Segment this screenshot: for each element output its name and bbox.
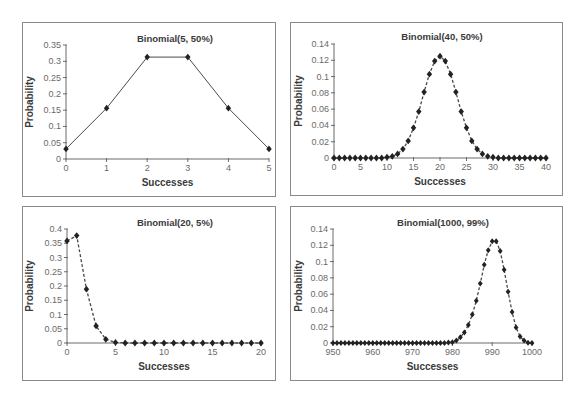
chart-binom-40-50: Binomial(40, 50%)00.020.040.060.080.10.1… bbox=[293, 31, 551, 187]
series-line bbox=[66, 57, 269, 149]
data-point-diamond bbox=[84, 286, 89, 293]
data-point-diamond bbox=[498, 248, 503, 254]
y-axis-title: Probability bbox=[293, 260, 304, 312]
y-tick-label: 0.1 bbox=[315, 257, 328, 267]
data-point-diamond bbox=[390, 153, 395, 160]
y-tick-label: 0.3 bbox=[48, 56, 61, 66]
data-point-diamond bbox=[427, 71, 432, 78]
x-axis-title: Successes bbox=[142, 177, 194, 188]
x-tick-label: 970 bbox=[405, 347, 420, 357]
x-tick-label: 10 bbox=[159, 347, 169, 357]
data-point-diamond bbox=[442, 340, 447, 346]
x-axis-title: Successes bbox=[138, 361, 190, 372]
y-tick-label: 0.25 bbox=[43, 73, 61, 83]
y-tick-label: 0.1 bbox=[316, 72, 329, 82]
chart-binom-1000-99: Binomial(1000, 99%)00.020.040.060.080.10… bbox=[293, 217, 542, 372]
data-point-diamond bbox=[530, 340, 535, 346]
chart-title: Binomial(40, 50%) bbox=[401, 31, 482, 42]
y-tick-label: 0.12 bbox=[311, 55, 329, 65]
data-point-diamond bbox=[200, 340, 205, 347]
data-point-diamond bbox=[142, 340, 147, 347]
chart-title: Binomial(1000, 99%) bbox=[397, 217, 489, 228]
x-tick-label: 4 bbox=[226, 163, 231, 173]
y-tick-label: 0.2 bbox=[48, 89, 61, 99]
data-point-diamond bbox=[358, 155, 363, 162]
data-point-diamond bbox=[352, 155, 357, 162]
y-tick-label: 0.02 bbox=[311, 137, 329, 147]
data-point-diamond bbox=[374, 155, 379, 162]
x-tick-label: 1000 bbox=[522, 347, 542, 357]
y-tick-label: 0.14 bbox=[310, 224, 328, 234]
data-point-diamond bbox=[405, 138, 410, 145]
data-point-diamond bbox=[517, 155, 522, 162]
chart-title: Binomial(20, 5%) bbox=[137, 217, 213, 228]
data-point-diamond bbox=[384, 154, 389, 161]
data-point-diamond bbox=[527, 155, 532, 162]
x-tick-label: 0 bbox=[64, 347, 69, 357]
data-point-diamond bbox=[464, 124, 469, 131]
y-tick-label: 0.12 bbox=[310, 240, 328, 250]
data-point-diamond bbox=[446, 340, 451, 346]
y-tick-label: 0.02 bbox=[310, 322, 328, 332]
series-line bbox=[333, 241, 532, 343]
data-point-diamond bbox=[219, 340, 224, 347]
x-tick-label: 20 bbox=[256, 347, 266, 357]
x-tick-label: 30 bbox=[488, 162, 498, 172]
data-point-diamond bbox=[152, 340, 157, 347]
y-tick-label: 0.15 bbox=[44, 295, 62, 305]
data-point-diamond bbox=[181, 340, 186, 347]
data-point-diamond bbox=[482, 262, 487, 268]
x-tick-label: 25 bbox=[461, 162, 471, 172]
chart-binom-20-5: Binomial(20, 5%)00.050.10.150.20.250.30.… bbox=[24, 217, 266, 372]
data-point-diamond bbox=[538, 155, 543, 162]
data-point-diamond bbox=[543, 155, 548, 162]
y-tick-label: 0.08 bbox=[310, 273, 328, 283]
data-point-diamond bbox=[342, 155, 347, 162]
y-axis-title: Probability bbox=[24, 260, 35, 312]
x-tick-label: 2 bbox=[145, 163, 150, 173]
y-tick-label: 0.1 bbox=[49, 310, 62, 320]
data-point-diamond bbox=[421, 89, 426, 96]
data-point-diamond bbox=[331, 155, 336, 162]
data-point-diamond bbox=[502, 267, 507, 273]
data-point-diamond bbox=[74, 232, 79, 239]
x-tick-label: 5 bbox=[358, 162, 363, 172]
y-tick-label: 0.05 bbox=[43, 138, 61, 148]
data-point-diamond bbox=[533, 155, 538, 162]
chart-title: Binomial(5, 50%) bbox=[137, 33, 213, 44]
y-tick-label: 0.06 bbox=[310, 289, 328, 299]
y-tick-label: 0.05 bbox=[44, 324, 62, 334]
data-point-diamond bbox=[486, 247, 491, 253]
charts-canvas: Binomial(5, 50%)00.050.10.150.20.250.30.… bbox=[0, 0, 584, 395]
data-point-diamond bbox=[494, 238, 499, 244]
data-point-diamond bbox=[229, 340, 234, 347]
y-axis-title: Probability bbox=[293, 75, 304, 127]
data-point-diamond bbox=[450, 339, 455, 345]
data-point-diamond bbox=[337, 155, 342, 162]
data-point-diamond bbox=[411, 124, 416, 131]
y-tick-label: 0.3 bbox=[49, 253, 62, 263]
data-point-diamond bbox=[400, 146, 405, 153]
x-tick-label: 20 bbox=[435, 162, 445, 172]
data-point-diamond bbox=[171, 340, 176, 347]
x-tick-label: 15 bbox=[408, 162, 418, 172]
x-tick-label: 0 bbox=[331, 162, 336, 172]
y-axis-title: Probability bbox=[24, 76, 35, 128]
x-tick-label: 1 bbox=[104, 163, 109, 173]
y-tick-label: 0.06 bbox=[311, 104, 329, 114]
data-point-diamond bbox=[470, 312, 475, 318]
y-tick-label: 0.2 bbox=[49, 281, 62, 291]
y-tick-label: 0.08 bbox=[311, 88, 329, 98]
data-point-diamond bbox=[249, 340, 254, 347]
data-point-diamond bbox=[258, 340, 263, 347]
x-tick-label: 950 bbox=[325, 347, 340, 357]
data-point-diamond bbox=[514, 325, 519, 331]
y-tick-label: 0.1 bbox=[48, 121, 61, 131]
x-tick-label: 35 bbox=[514, 162, 524, 172]
data-point-diamond bbox=[511, 155, 516, 162]
data-point-diamond bbox=[478, 281, 483, 287]
y-tick-label: 0.14 bbox=[311, 39, 329, 49]
x-tick-label: 5 bbox=[266, 163, 271, 173]
y-tick-label: 0 bbox=[56, 154, 61, 164]
x-tick-label: 980 bbox=[445, 347, 460, 357]
